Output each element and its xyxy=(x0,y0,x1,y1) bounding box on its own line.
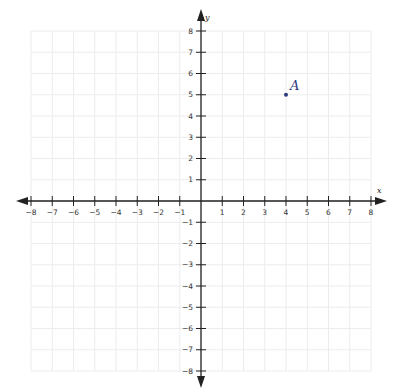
arrow-up-icon xyxy=(197,9,205,21)
x-tick-label: 5 xyxy=(305,208,310,217)
arrow-down-icon xyxy=(197,376,205,388)
axes: xy xyxy=(16,9,387,388)
x-tick-label: −7 xyxy=(47,208,58,217)
y-tick-label: 5 xyxy=(188,90,193,99)
y-tick-label: −1 xyxy=(182,218,193,227)
x-tick-label: −8 xyxy=(25,208,36,217)
x-tick-label: −5 xyxy=(89,208,100,217)
y-tick-label: −7 xyxy=(182,345,193,354)
coordinate-plane: xy −8−7−6−5−4−3−2−112345678−8−7−6−5−4−3−… xyxy=(0,0,402,390)
x-tick-label: −1 xyxy=(174,208,185,217)
x-tick-label: 8 xyxy=(369,208,374,217)
x-tick-label: 2 xyxy=(241,208,246,217)
y-tick-label: 2 xyxy=(188,154,193,163)
x-tick-label: 6 xyxy=(326,208,331,217)
y-tick-label: 1 xyxy=(188,175,193,184)
y-tick-label: −3 xyxy=(182,260,193,269)
y-tick-label: 4 xyxy=(188,112,193,121)
y-tick-label: −5 xyxy=(182,303,193,312)
y-tick-label: 6 xyxy=(188,69,193,78)
y-tick-label: −8 xyxy=(182,367,193,376)
x-tick-label: 3 xyxy=(262,208,267,217)
point-label-A: A xyxy=(289,78,299,93)
arrow-right-icon xyxy=(375,197,387,205)
x-tick-label: −4 xyxy=(110,208,121,217)
y-axis-label: y xyxy=(204,13,210,22)
point-A xyxy=(284,93,288,97)
x-tick-label: −3 xyxy=(132,208,143,217)
x-tick-label: 1 xyxy=(220,208,225,217)
x-axis-label: x xyxy=(377,186,382,195)
x-tick-label: −6 xyxy=(68,208,79,217)
y-tick-label: −6 xyxy=(182,324,193,333)
y-tick-label: 3 xyxy=(188,133,193,142)
y-tick-label: −4 xyxy=(182,282,193,291)
y-tick-label: 8 xyxy=(188,27,193,36)
y-tick-label: −2 xyxy=(182,239,193,248)
arrow-left-icon xyxy=(16,197,28,205)
x-tick-label: 7 xyxy=(347,208,352,217)
x-tick-label: 4 xyxy=(284,208,289,217)
x-tick-label: −2 xyxy=(153,208,164,217)
y-tick-label: 7 xyxy=(188,48,193,57)
